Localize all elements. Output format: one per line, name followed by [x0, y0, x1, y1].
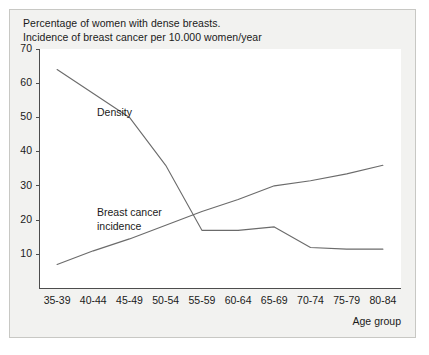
- x-tick-label: 50-54: [152, 294, 179, 306]
- y-tick-label: 70: [20, 42, 32, 54]
- figure-frame: Percentage of women with dense breasts. …: [9, 9, 416, 338]
- annotation-incidence-line-2: incidence: [97, 220, 142, 232]
- x-tick-label: 75-79: [333, 294, 360, 306]
- annotation-incidence-line-1: Breast cancer: [97, 206, 162, 218]
- y-tick-marks: [36, 49, 39, 254]
- y-axis: 10203040506070: [20, 42, 39, 289]
- line-chart: 10203040506070 35-3940-4445-4950-5455-59…: [10, 10, 417, 339]
- x-tick-labels: 35-3940-4445-4950-5455-5960-6465-6970-74…: [44, 294, 397, 306]
- x-tick-label: 55-59: [188, 294, 215, 306]
- data-series: [57, 70, 383, 265]
- x-tick-label: 60-64: [225, 294, 252, 306]
- y-tick-label: 50: [20, 110, 32, 122]
- x-tick-label: 80-84: [369, 294, 396, 306]
- x-tick-label: 35-39: [44, 294, 71, 306]
- x-tick-label: 65-69: [261, 294, 288, 306]
- x-tick-label: 70-74: [297, 294, 324, 306]
- x-tick-label: 40-44: [80, 294, 107, 306]
- y-tick-label: 20: [20, 213, 32, 225]
- x-axis-title: Age group: [353, 315, 401, 327]
- y-tick-label: 10: [20, 247, 32, 259]
- y-tick-label: 30: [20, 179, 32, 191]
- x-tick-label: 45-49: [116, 294, 143, 306]
- annotation-density: Density: [97, 106, 133, 118]
- y-tick-label: 40: [20, 144, 32, 156]
- series-annotations: Density Breast cancer incidence: [97, 106, 162, 232]
- x-axis: 35-3940-4445-4950-5455-5960-6465-6970-74…: [39, 289, 401, 306]
- y-tick-labels: 10203040506070: [20, 42, 32, 259]
- y-tick-label: 60: [20, 76, 32, 88]
